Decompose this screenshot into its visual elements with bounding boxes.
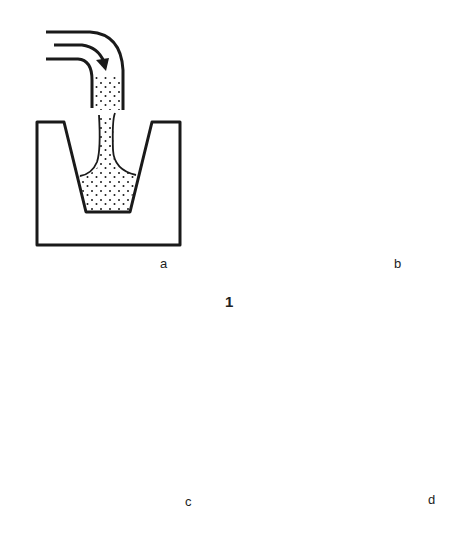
panel-label-d: d bbox=[428, 492, 435, 507]
pour-stream-a bbox=[99, 115, 114, 150]
pour-spout-icon bbox=[46, 32, 123, 110]
figure-number: 1 bbox=[225, 293, 233, 310]
panel-label-a: a bbox=[160, 256, 167, 271]
slip-pool-a bbox=[79, 150, 136, 210]
panel-a bbox=[37, 32, 180, 245]
panel-label-b: b bbox=[394, 256, 401, 271]
figure-canvas bbox=[0, 0, 451, 537]
panel-label-c: c bbox=[185, 494, 192, 509]
